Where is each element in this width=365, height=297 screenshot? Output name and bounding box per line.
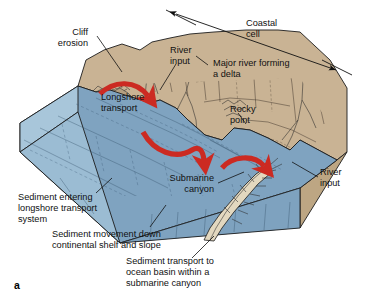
label-submarine-canyon-line1: Submarine bbox=[170, 173, 214, 183]
label-sediment-transport-basin-line3: submarine canyon bbox=[126, 278, 201, 288]
label-longshore-transport-line1: Longshore bbox=[101, 92, 144, 102]
label-rocky-point-line2: point bbox=[230, 115, 250, 125]
label-sediment-entering-line3: system bbox=[18, 214, 47, 224]
label-cliff-erosion-line1: Cliff bbox=[72, 27, 88, 37]
label-coastal-cell-line1: Coastal bbox=[246, 18, 277, 28]
panel-label-a: a bbox=[14, 279, 20, 291]
label-sediment-entering-line1: Sediment entering bbox=[18, 192, 93, 202]
label-river-input-top-line1: River bbox=[170, 45, 191, 55]
label-cliff-erosion-line2: erosion bbox=[58, 38, 88, 48]
label-river-input-top-line2: input bbox=[170, 56, 190, 66]
label-coastal-cell-line2: cell bbox=[246, 29, 260, 39]
label-major-river-delta-line2: a delta bbox=[213, 69, 241, 79]
label-river-input-right-line1: River bbox=[320, 167, 341, 177]
label-rocky-point-line1: Rocky bbox=[230, 104, 256, 114]
label-sediment-movement-line2: continental shelf and slope bbox=[52, 240, 161, 250]
label-sediment-transport-basin-line1: Sediment transport to bbox=[126, 256, 214, 266]
label-river-input-right-line2: input bbox=[320, 178, 340, 188]
figure-root: Cliff erosion River input Coastal cell M… bbox=[0, 0, 365, 297]
label-sediment-transport-basin-line2: ocean basin within a bbox=[126, 267, 210, 277]
label-major-river-delta-line1: Major river forming bbox=[213, 58, 290, 68]
label-submarine-canyon-line2: canyon bbox=[184, 184, 214, 194]
label-longshore-transport-line2: transport bbox=[101, 103, 138, 113]
label-sediment-movement-line1: Sediment movement down bbox=[52, 229, 161, 239]
label-sediment-entering-line2: longshore transport bbox=[18, 203, 98, 213]
block-diagram-svg: Cliff erosion River input Coastal cell M… bbox=[0, 0, 365, 297]
